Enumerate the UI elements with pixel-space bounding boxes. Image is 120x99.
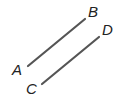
point-label-d: D <box>102 21 113 38</box>
point-label-c: C <box>26 80 37 97</box>
segment-ab <box>28 19 85 66</box>
point-label-a: A <box>11 61 22 78</box>
point-label-b: B <box>88 3 98 20</box>
segment-cd <box>42 37 99 84</box>
parallel-lines-diagram: A B C D <box>0 0 120 99</box>
